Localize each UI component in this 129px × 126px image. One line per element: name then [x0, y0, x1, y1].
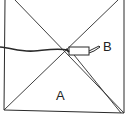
- label-b: B: [103, 39, 112, 54]
- wire-icon: [0, 47, 68, 51]
- probe-tip-icon: [89, 46, 100, 53]
- diagram-canvas: B A: [0, 0, 129, 126]
- label-a: A: [56, 88, 65, 103]
- probe-body: [69, 47, 89, 55]
